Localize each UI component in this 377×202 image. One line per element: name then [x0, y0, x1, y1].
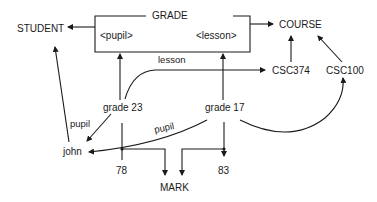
grade23-label: grade 23	[103, 102, 143, 113]
edge-grade17-john	[89, 120, 207, 152]
edge-grade17-csc100	[240, 78, 343, 132]
pupil-role-label: <pupil>	[100, 30, 133, 41]
mark-78-label: 78	[116, 165, 128, 176]
grade-label: GRADE	[152, 10, 188, 21]
csc100-label: CSC100	[326, 65, 364, 76]
edge-label-pupil-left: pupil	[70, 118, 90, 129]
mark-label: MARK	[160, 182, 189, 193]
diagram-canvas: GRADE STUDENT COURSE <pupil> <lesson> le…	[0, 0, 377, 202]
csc374-label: CSC374	[272, 65, 310, 76]
edge-grade23-john	[87, 114, 111, 141]
edge-label-lesson: lesson	[158, 54, 185, 65]
mark-83-label: 83	[218, 165, 230, 176]
edge-label-pupil-mid: pupil	[153, 120, 175, 135]
course-label: COURSE	[279, 19, 322, 30]
grade17-label: grade 17	[205, 102, 245, 113]
edge-csc100-course	[318, 36, 342, 62]
edge-grade23-csc374	[125, 70, 265, 99]
student-label: STUDENT	[17, 23, 64, 34]
edge-78-mark	[122, 149, 165, 175]
john-label: john	[62, 146, 82, 157]
edge-john-student	[55, 47, 69, 142]
lesson-role-label: <lesson>	[196, 30, 237, 41]
